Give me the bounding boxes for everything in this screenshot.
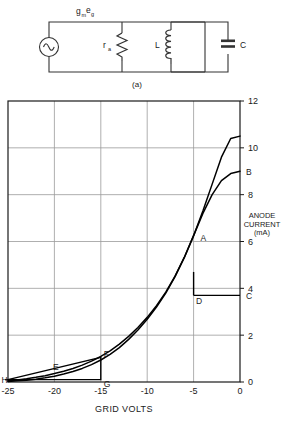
- x-axis-label: GRID VOLTS: [95, 404, 153, 414]
- point-a: A: [200, 233, 206, 243]
- point-d: D: [196, 296, 202, 306]
- inductor-label: L: [155, 40, 160, 50]
- x-tick-label: -10: [141, 386, 154, 396]
- circuit-wires: [49, 22, 228, 72]
- capacitor-label: C: [240, 40, 246, 50]
- ac-source-icon: [40, 38, 59, 57]
- point-h: H: [2, 375, 8, 385]
- figure-root: g m e g r a L C (a) -25-20-15-10-5002468…: [0, 0, 285, 425]
- y-tick-label: 2: [248, 331, 253, 341]
- ra-label: r: [103, 40, 106, 50]
- inductor-icon: [166, 30, 171, 64]
- x-tick-label: -5: [190, 386, 198, 396]
- x-tick-label: -20: [48, 386, 61, 396]
- point-c: C: [246, 291, 252, 301]
- y-tick-label: 0: [248, 377, 253, 387]
- resistor-ra-icon: [117, 33, 127, 61]
- eg-subscript: g: [91, 11, 94, 17]
- point-b: B: [246, 167, 252, 177]
- chart-tick-labels: -25-20-15-10-50024681012: [1, 96, 258, 396]
- figure-caption: (a): [132, 80, 142, 89]
- point-g: G: [104, 379, 111, 389]
- x-tick-label: 0: [237, 386, 242, 396]
- chart-curves: [8, 136, 240, 381]
- y-tick-label: 12: [248, 96, 258, 106]
- capacitor-icon: [221, 40, 235, 48]
- gm-label: g: [76, 6, 81, 16]
- y-axis-label-line: (mA): [254, 228, 271, 237]
- circuit-labels: g m e g r a L C (a): [76, 5, 246, 90]
- y-tick-label: 6: [248, 237, 253, 247]
- ra-subscript: a: [108, 46, 112, 52]
- y-tick-label: 8: [248, 190, 253, 200]
- point-f: F: [104, 349, 109, 359]
- chart-annotations: ABCDEFGH: [2, 167, 253, 389]
- y-tick-label: 10: [248, 143, 258, 153]
- x-tick-label: -25: [1, 386, 14, 396]
- point-e: E: [53, 362, 59, 372]
- anode-current-chart: -25-20-15-10-50024681012 ABCDEFGH GRID V…: [0, 92, 285, 425]
- circuit-diagram: g m e g r a L C (a): [0, 0, 285, 92]
